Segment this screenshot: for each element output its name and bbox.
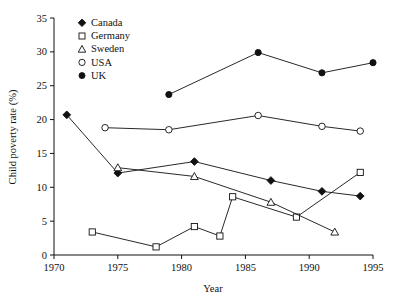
data-point-marker [78, 45, 86, 52]
data-point-marker [255, 112, 262, 119]
data-point-marker [190, 158, 198, 166]
data-point-marker [191, 223, 197, 229]
legend-item-label: USA [91, 57, 112, 68]
x-axis-ticks: 197019751980198519901995 [44, 255, 384, 273]
data-point-marker [166, 126, 173, 133]
x-tick-label: 1995 [363, 262, 384, 273]
data-point-marker [230, 194, 236, 200]
data-point-marker [319, 70, 325, 76]
x-tick-label: 1980 [171, 262, 192, 273]
y-tick-label: 30 [37, 46, 48, 57]
legend-item-label: UK [91, 70, 107, 81]
data-point-marker [331, 228, 339, 235]
legend-item-sweden[interactable]: Sweden [78, 43, 125, 54]
data-point-marker [318, 187, 326, 195]
x-tick-label: 1970 [44, 262, 65, 273]
series-polyline [118, 168, 335, 232]
chart-figure: 05101520253035 197019751980198519901995 … [0, 0, 403, 305]
series-polyline [169, 53, 373, 95]
data-point-marker [166, 91, 172, 97]
data-point-marker [370, 60, 376, 66]
data-point-marker [356, 192, 364, 200]
data-point-marker [153, 244, 159, 250]
data-point-marker [255, 49, 261, 55]
data-point-marker [79, 33, 85, 39]
data-point-marker [102, 124, 109, 131]
legend-item-canada[interactable]: Canada [78, 17, 123, 28]
data-point-marker [114, 164, 122, 171]
series-layer [63, 49, 376, 250]
data-point-marker [78, 19, 86, 27]
series-sweden [114, 164, 339, 235]
chart-legend: CanadaGermanySwedenUSAUK [78, 17, 131, 81]
y-tick-label: 5 [42, 216, 47, 227]
y-axis-title: Child poverty rate (%) [7, 89, 19, 184]
y-tick-label: 0 [42, 250, 47, 261]
series-polyline [67, 115, 360, 196]
data-point-marker [319, 123, 326, 130]
y-tick-label: 10 [37, 182, 48, 193]
legend-item-germany[interactable]: Germany [79, 30, 131, 41]
data-point-marker [79, 73, 85, 79]
child-poverty-line-chart: 05101520253035 197019751980198519901995 … [0, 0, 403, 305]
data-point-marker [79, 59, 85, 65]
y-tick-label: 35 [37, 13, 48, 24]
y-tick-label: 15 [37, 148, 48, 159]
y-tick-label: 25 [37, 80, 48, 91]
legend-item-label: Germany [91, 30, 131, 41]
data-point-marker [267, 198, 275, 205]
legend-item-label: Sweden [91, 43, 125, 54]
series-germany [89, 169, 363, 250]
y-tick-label: 20 [37, 114, 48, 125]
series-usa [102, 112, 364, 134]
legend-item-label: Canada [91, 17, 123, 28]
data-point-marker [357, 128, 364, 135]
x-axis-title: Year [203, 283, 223, 294]
x-tick-label: 1990 [299, 262, 320, 273]
y-axis-ticks: 05101520253035 [37, 13, 55, 261]
legend-item-uk[interactable]: UK [79, 70, 107, 81]
data-point-marker [89, 229, 95, 235]
data-point-marker [217, 233, 223, 239]
x-tick-label: 1985 [235, 262, 256, 273]
data-point-marker [357, 169, 363, 175]
x-tick-label: 1975 [107, 262, 128, 273]
data-point-marker [267, 177, 275, 185]
legend-item-usa[interactable]: USA [79, 57, 113, 68]
series-polyline [92, 172, 360, 246]
series-uk [166, 49, 376, 97]
